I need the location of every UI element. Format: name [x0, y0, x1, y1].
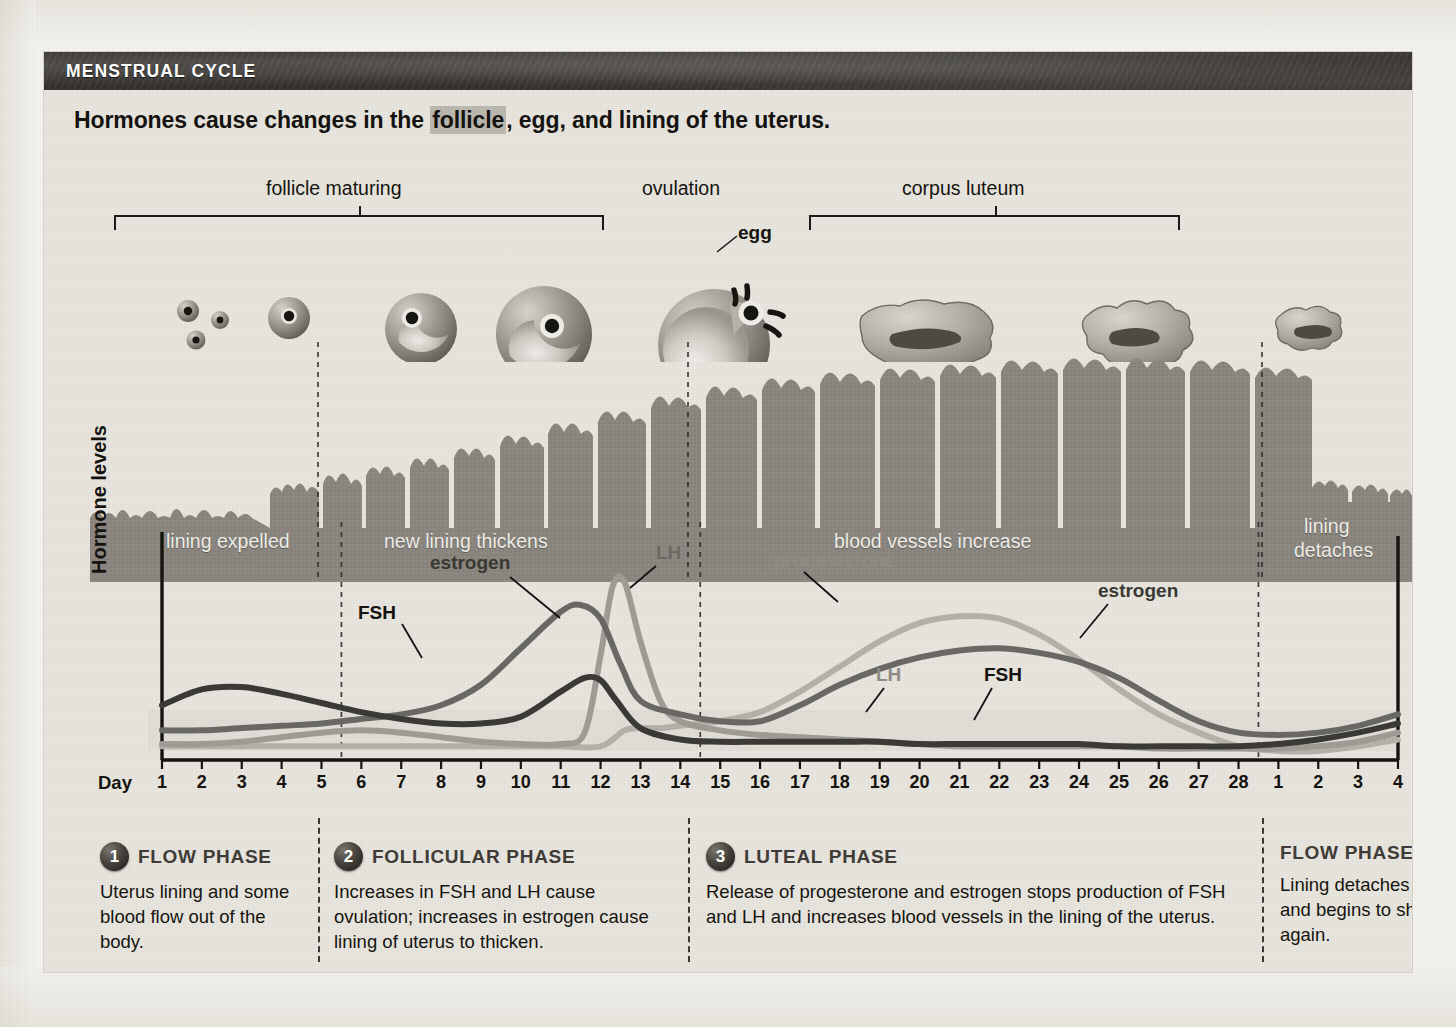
curve-label-estrogen: estrogen — [430, 552, 510, 574]
headline-pre: Hormones cause changes in the — [74, 107, 430, 133]
phase-divider-2 — [688, 818, 690, 962]
curve-label-progesterone: progesterone — [774, 550, 895, 572]
day-tick-16: 16 — [745, 772, 775, 793]
day-tick-9: 9 — [466, 772, 496, 793]
day-tick-6: 6 — [346, 772, 376, 793]
curve-label-fsh: FSH — [358, 602, 396, 624]
stage-label-follicle-maturing: follicle maturing — [266, 177, 401, 200]
stage-label-ovulation: ovulation — [642, 177, 720, 200]
menstrual-cycle-figure-panel: MENSTRUAL CYCLE Hormones cause changes i… — [44, 52, 1412, 972]
curve-label-lh2: LH — [876, 664, 901, 686]
day-tick-19: 19 — [865, 772, 895, 793]
phase-card-flow[interactable]: 1FLOW PHASE Uterus lining and some blood… — [100, 842, 305, 954]
phase-body-2: Increases in FSH and LH cause ovulation;… — [334, 880, 674, 954]
day-tick-25: 25 — [1104, 772, 1134, 793]
bracket-corpus-luteum — [809, 215, 1180, 230]
phase-badge-1: 1 — [100, 842, 129, 871]
day-tick-15: 15 — [705, 772, 735, 793]
stage-label-corpus-luteum: corpus luteum — [902, 177, 1024, 200]
day-tick-22: 22 — [984, 772, 1014, 793]
page-edge-top-shadow — [0, 0, 1456, 46]
headline-highlight-follicle: follicle — [430, 106, 506, 134]
day-tick-12: 12 — [586, 772, 616, 793]
page-edge-left-shadow — [0, 0, 36, 1027]
phase-card-luteal[interactable]: 3LUTEAL PHASE Release of progesterone an… — [706, 842, 1251, 930]
chart-x-axis-label: Day — [98, 772, 132, 794]
day-tick-4: 4 — [1383, 772, 1412, 793]
day-tick-1: 1 — [147, 772, 177, 793]
phase-card-flow-again[interactable]: FLOW PHASE Lining detaches and begins to… — [1280, 842, 1412, 947]
phase-card-follicular[interactable]: 2FOLLICULAR PHASE Increases in FSH and L… — [334, 842, 674, 954]
phase-title-4: FLOW PHASE — [1280, 842, 1412, 864]
day-tick-11: 11 — [546, 772, 576, 793]
hormone-levels-chart: Hormone levels Day 123456789101112131415… — [90, 522, 1412, 822]
day-tick-17: 17 — [785, 772, 815, 793]
day-tick-3: 3 — [1343, 772, 1373, 793]
page-edge-bottom-shadow — [0, 967, 1456, 1027]
day-tick-14: 14 — [665, 772, 695, 793]
day-tick-13: 13 — [625, 772, 655, 793]
chart-y-axis-label: Hormone levels — [88, 394, 111, 574]
day-tick-2: 2 — [187, 772, 217, 793]
headline-post: , egg, and lining of the uterus. — [506, 107, 830, 133]
phase-badge-2: 2 — [334, 842, 363, 871]
phase-badge-3: 3 — [706, 842, 735, 871]
phase-body-4: Lining detaches and begins to shed again… — [1280, 873, 1412, 947]
day-tick-3: 3 — [227, 772, 257, 793]
phase-title-2: FOLLICULAR PHASE — [372, 846, 575, 868]
bracket-follicle-maturing — [114, 215, 604, 230]
day-tick-2: 2 — [1303, 772, 1333, 793]
primary-follicle — [268, 297, 310, 339]
day-tick-28: 28 — [1224, 772, 1254, 793]
phase-divider-1 — [318, 818, 320, 962]
phase-descriptions: 1FLOW PHASE Uterus lining and some blood… — [90, 842, 1412, 962]
curve-label-fsh2: FSH — [984, 664, 1022, 686]
day-tick-1: 1 — [1263, 772, 1293, 793]
day-tick-24: 24 — [1064, 772, 1094, 793]
curve-label-lh: LH — [656, 542, 681, 564]
day-tick-20: 20 — [905, 772, 935, 793]
figure-headline: Hormones cause changes in the follicle, … — [74, 107, 830, 134]
day-tick-27: 27 — [1184, 772, 1214, 793]
day-tick-10: 10 — [506, 772, 536, 793]
figure-title-bar: MENSTRUAL CYCLE — [44, 52, 1412, 90]
day-tick-21: 21 — [944, 772, 974, 793]
phase-divider-3 — [1262, 818, 1264, 962]
phase-body-3: Release of progesterone and estrogen sto… — [706, 880, 1251, 930]
phase-body-1: Uterus lining and some blood flow out of… — [100, 880, 305, 954]
day-tick-26: 26 — [1144, 772, 1174, 793]
day-tick-23: 23 — [1024, 772, 1054, 793]
day-tick-4: 4 — [267, 772, 297, 793]
phase-title-1: FLOW PHASE — [138, 846, 272, 868]
figure-title: MENSTRUAL CYCLE — [66, 61, 256, 82]
curve-label-estrogen2: estrogen — [1098, 580, 1178, 602]
phase-title-3: LUTEAL PHASE — [744, 846, 898, 868]
day-tick-5: 5 — [306, 772, 336, 793]
day-tick-8: 8 — [426, 772, 456, 793]
day-tick-18: 18 — [825, 772, 855, 793]
day-tick-7: 7 — [386, 772, 416, 793]
